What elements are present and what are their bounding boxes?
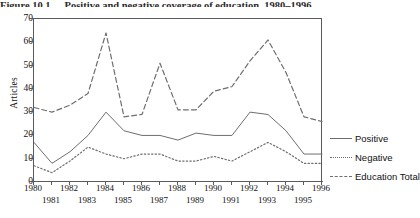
legend-label-negative: Negative — [355, 152, 393, 163]
x-tick-label: 1984 — [96, 183, 114, 193]
x-tick-label: 1987 — [150, 195, 168, 205]
legend-label-education-total: Education Total — [355, 171, 420, 182]
x-tick-label: 1981 — [42, 195, 60, 205]
legend-label-positive: Positive — [355, 133, 388, 144]
x-tick-label: 1983 — [78, 195, 96, 205]
line-dotted-icon — [330, 154, 352, 162]
x-tick-label: 1990 — [204, 183, 222, 193]
x-tick-mark — [267, 181, 268, 185]
legend-item-negative: Negative — [330, 148, 412, 167]
series-positive — [34, 112, 322, 163]
x-tick-label: 1994 — [276, 183, 294, 193]
x-tick-mark — [87, 181, 88, 185]
series-negative — [34, 142, 322, 172]
legend-item-positive: Positive — [330, 129, 412, 148]
x-tick-mark — [51, 181, 52, 185]
x-tick-label: 1988 — [168, 183, 186, 193]
x-tick-label: 1982 — [60, 183, 78, 193]
legend-item-education-total: Education Total — [330, 167, 412, 186]
x-tick-label: 1996 — [312, 183, 330, 193]
x-tick-label: 1993 — [258, 195, 276, 205]
legend: Positive Negative Education Total — [330, 129, 412, 186]
x-axis-line — [33, 181, 323, 182]
series-education-total — [34, 33, 322, 121]
line-dashed-icon — [330, 173, 352, 181]
x-tick-mark — [303, 181, 304, 185]
line-solid-icon — [330, 135, 352, 143]
x-tick-label: 1989 — [186, 195, 204, 205]
plot-area — [33, 18, 322, 181]
x-tick-mark — [195, 181, 196, 185]
x-tick-label: 1991 — [222, 195, 240, 205]
x-tick-label: 1995 — [294, 195, 312, 205]
figure-caption: Figure 10.1Positive and negative coverag… — [0, 0, 412, 7]
figure-caption-text: Positive and negative coverage of educat… — [65, 0, 312, 7]
series-lines — [34, 19, 323, 182]
x-tick-label: 1992 — [240, 183, 258, 193]
x-tick-label: 1980 — [24, 183, 42, 193]
x-tick-label: 1985 — [114, 195, 132, 205]
x-tick-label: 1986 — [132, 183, 150, 193]
x-tick-mark — [231, 181, 232, 185]
x-tick-mark — [159, 181, 160, 185]
x-tick-mark — [123, 181, 124, 185]
